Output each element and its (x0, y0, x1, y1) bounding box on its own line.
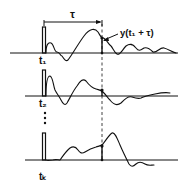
response-1 (46, 29, 176, 60)
tau-dimension: τ (44, 8, 102, 26)
trace-1-label: t₁ (39, 55, 46, 66)
arrow-head-icon (96, 20, 102, 24)
response-k (46, 133, 154, 166)
response-2 (46, 76, 170, 104)
ellipsis-dots (44, 112, 46, 124)
trace-2: t₂ (25, 70, 178, 109)
sample-value-label: y(t₁ + τ) (120, 27, 154, 38)
impulse-k (43, 133, 46, 160)
impulse-response-diagram: τ y(t₁ + τ) t₁ t₂ tₖ (0, 0, 187, 190)
impulse-2 (43, 70, 46, 96)
trace-2-label: t₂ (39, 98, 47, 109)
trace-k: tₖ (25, 133, 178, 182)
tau-label: τ (70, 8, 75, 20)
trace-k-label: tₖ (39, 171, 47, 182)
trace-1: y(t₁ + τ) t₁ (10, 27, 178, 66)
impulse-1 (43, 27, 46, 53)
